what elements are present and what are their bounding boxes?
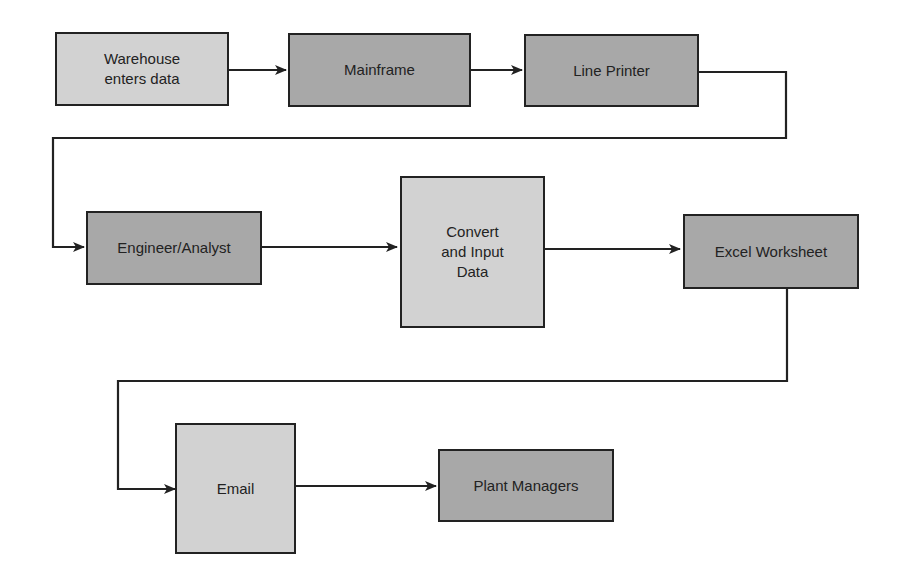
node-label: Email <box>217 479 255 499</box>
node-plant-managers: Plant Managers <box>438 449 614 522</box>
node-convert-and-input-data: Convert and Input Data <box>400 176 545 328</box>
node-label: Line Printer <box>573 61 650 81</box>
node-excel-worksheet: Excel Worksheet <box>683 214 859 289</box>
node-label: Warehouse enters data <box>104 49 180 89</box>
flowchart-canvas: Warehouse enters data Mainframe Line Pri… <box>0 0 905 573</box>
node-label: Plant Managers <box>473 476 578 496</box>
node-line-printer: Line Printer <box>524 34 699 107</box>
node-label: Mainframe <box>344 60 415 80</box>
node-mainframe: Mainframe <box>288 33 471 107</box>
node-label: Convert and Input Data <box>441 222 504 282</box>
node-engineer-analyst: Engineer/Analyst <box>86 211 262 285</box>
node-warehouse-enters-data: Warehouse enters data <box>55 32 229 106</box>
node-email: Email <box>175 423 296 554</box>
node-label: Engineer/Analyst <box>117 238 230 258</box>
node-label: Excel Worksheet <box>715 242 827 262</box>
